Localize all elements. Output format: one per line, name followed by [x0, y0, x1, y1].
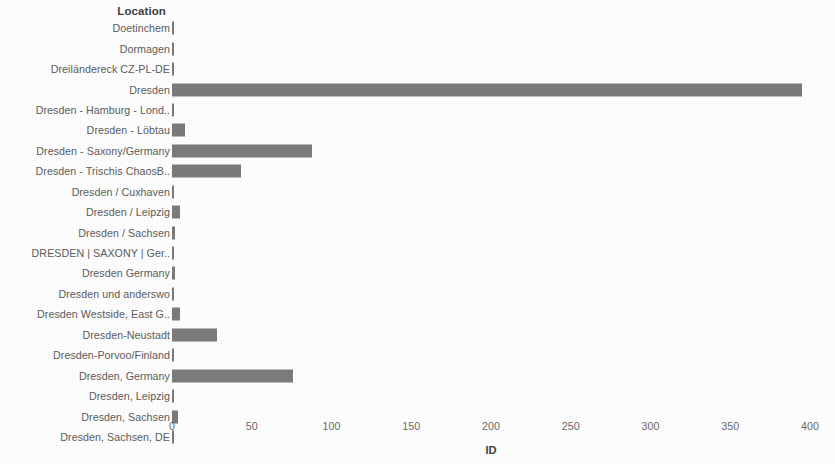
bar-row: Dreiländereck CZ-PL-DE	[0, 59, 835, 79]
x-tick-label: 350	[721, 420, 739, 432]
bar	[172, 267, 175, 280]
bar-row: Dresden-Neustadt	[0, 325, 835, 345]
bar-row: DRESDEN | SAXONY | Ger..	[0, 243, 835, 263]
category-label: Dresden, Sachsen, DE	[60, 431, 170, 443]
x-tick-label: 250	[562, 420, 580, 432]
bar-row: Dresden Westside, East G..	[0, 304, 835, 324]
bar-row: Dormagen	[0, 38, 835, 58]
category-label: Dresden	[129, 84, 170, 96]
bar-row: Dresden-Porvoo/Finland	[0, 345, 835, 365]
category-label: Dresden-Porvoo/Finland	[53, 349, 170, 361]
bar	[172, 308, 180, 321]
category-label: Dresden - Löbtau	[87, 124, 170, 136]
bar-row: Dresden / Cuxhaven	[0, 182, 835, 202]
x-tick-label: 150	[402, 420, 420, 432]
category-label: Dresden - Saxony/Germany	[36, 145, 170, 157]
x-tick-label: 200	[482, 420, 500, 432]
bar	[172, 430, 174, 443]
bar-row: Dresden, Germany	[0, 365, 835, 385]
category-label: Dresden, Leipzig	[89, 390, 170, 402]
bar	[172, 22, 174, 35]
bar-row: Dresden	[0, 79, 835, 99]
x-tick-label: 0	[169, 420, 175, 432]
category-label: Dresden / Cuxhaven	[72, 186, 170, 198]
bar	[172, 226, 175, 239]
bar	[172, 349, 174, 362]
bar-row: Dresden und anderswo	[0, 284, 835, 304]
category-label: Dresden / Sachsen	[78, 227, 170, 239]
bar-row: Dresden / Leipzig	[0, 202, 835, 222]
bar-row: Dresden - Hamburg - Lond..	[0, 100, 835, 120]
bar-row: Doetinchem	[0, 18, 835, 38]
chart-rows: DoetinchemDormagenDreiländereck CZ-PL-DE…	[0, 18, 835, 416]
bar	[172, 83, 802, 96]
bar	[172, 287, 174, 300]
category-label: DRESDEN | SAXONY | Ger..	[32, 247, 170, 259]
category-label: Dresden - Trischis ChaosB..	[36, 165, 170, 177]
bar-row: Dresden / Sachsen	[0, 222, 835, 242]
bar	[172, 124, 185, 137]
bar-row: Dresden, Leipzig	[0, 386, 835, 406]
bar-row: Dresden Germany	[0, 263, 835, 283]
x-tick-label: 300	[642, 420, 660, 432]
bar-row: Dresden - Trischis ChaosB..	[0, 161, 835, 181]
category-label: Dreiländereck CZ-PL-DE	[51, 63, 170, 75]
category-label: Dresden Westside, East G..	[37, 308, 170, 320]
category-label: Dormagen	[120, 43, 170, 55]
bar	[172, 247, 174, 260]
category-label: Dresden, Germany	[79, 370, 170, 382]
category-label: Dresden, Sachsen	[81, 411, 170, 423]
category-label: Dresden Germany	[82, 267, 170, 279]
x-axis-title: ID	[172, 444, 810, 456]
bar	[172, 328, 217, 341]
x-tick-label: 50	[246, 420, 258, 432]
bar	[172, 206, 180, 219]
category-label: Dresden und anderswo	[58, 288, 170, 300]
category-label: Dresden / Leipzig	[86, 206, 170, 218]
bar-row: Dresden - Löbtau	[0, 120, 835, 140]
x-tick-label: 400	[801, 420, 819, 432]
bar-row: Dresden - Saxony/Germany	[0, 141, 835, 161]
y-axis-title: Location	[0, 5, 172, 17]
bar	[172, 103, 174, 116]
category-label: Doetinchem	[112, 22, 170, 34]
bar	[172, 185, 174, 198]
category-label: Dresden-Neustadt	[82, 329, 170, 341]
bar	[172, 144, 312, 157]
bar	[172, 165, 241, 178]
bar	[172, 42, 174, 55]
bar-chart: Location DoetinchemDormagenDreiländereck…	[0, 0, 835, 464]
x-tick-label: 100	[323, 420, 341, 432]
x-axis: 050100150200250300350400	[172, 416, 810, 417]
bar	[172, 63, 174, 76]
bar	[172, 390, 174, 403]
bar	[172, 369, 293, 382]
category-label: Dresden - Hamburg - Lond..	[36, 104, 170, 116]
